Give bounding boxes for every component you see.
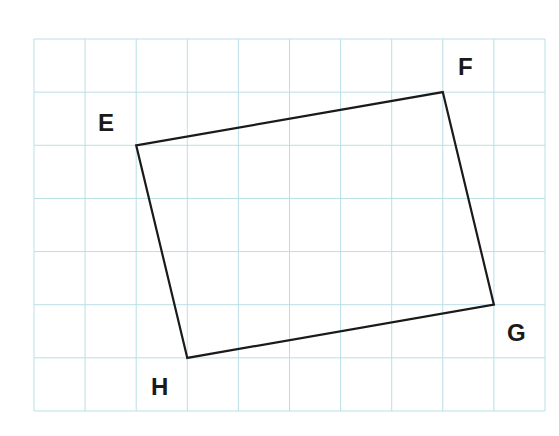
quadrilateral-efgh xyxy=(136,92,494,358)
vertex-label-e: E xyxy=(98,109,114,136)
vertex-label-g: G xyxy=(507,319,526,346)
vertex-label-h: H xyxy=(151,373,168,400)
grid-diagram: E F G H xyxy=(0,0,559,436)
grid xyxy=(34,39,545,411)
vertex-label-f: F xyxy=(458,53,473,80)
